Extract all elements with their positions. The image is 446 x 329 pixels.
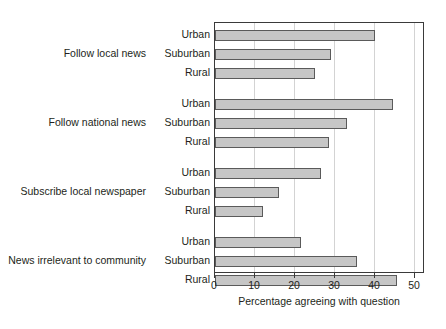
x-tick-30 <box>334 273 335 278</box>
sub-label-3-suburban: Suburban <box>152 255 210 266</box>
x-tick-10 <box>254 273 255 278</box>
bar-chart: Percentage agreeing with question 010203… <box>0 0 446 329</box>
bar-0-urban <box>215 30 375 41</box>
x-tick-50 <box>414 273 415 278</box>
sub-label-0-urban: Urban <box>152 29 210 40</box>
sub-label-1-urban: Urban <box>152 98 210 109</box>
sub-label-2-rural: Rural <box>152 205 210 216</box>
sub-label-2-urban: Urban <box>152 167 210 178</box>
group-label-0: Follow local news <box>0 48 146 59</box>
gridline-50 <box>414 23 415 272</box>
x-tick-label-50: 50 <box>402 279 426 291</box>
plot-area <box>214 22 424 273</box>
sub-label-3-urban: Urban <box>152 236 210 247</box>
x-tick-20 <box>294 273 295 278</box>
group-label-3: News irrelevant to community <box>0 255 146 266</box>
bar-2-rural <box>215 206 263 217</box>
group-label-2: Subscribe local newspaper <box>0 186 146 197</box>
sub-label-1-suburban: Suburban <box>152 117 210 128</box>
x-tick-label-40: 40 <box>362 279 386 291</box>
x-tick-label-30: 30 <box>322 279 346 291</box>
bar-0-rural <box>215 68 315 79</box>
sub-label-2-suburban: Suburban <box>152 186 210 197</box>
bar-1-suburban <box>215 118 347 129</box>
sub-label-3-rural: Rural <box>152 274 210 285</box>
x-tick-40 <box>374 273 375 278</box>
gridline-40 <box>374 23 375 272</box>
bar-0-suburban <box>215 49 331 60</box>
bar-1-urban <box>215 99 393 110</box>
x-tick-label-10: 10 <box>242 279 266 291</box>
x-axis-title: Percentage agreeing with question <box>214 295 424 307</box>
group-label-1: Follow national news <box>0 117 146 128</box>
x-tick-label-20: 20 <box>282 279 306 291</box>
sub-label-0-suburban: Suburban <box>152 48 210 59</box>
bar-1-rural <box>215 137 329 148</box>
bar-3-suburban <box>215 256 357 267</box>
sub-label-0-rural: Rural <box>152 67 210 78</box>
bar-3-urban <box>215 237 301 248</box>
bar-2-suburban <box>215 187 279 198</box>
x-tick-0 <box>214 273 215 278</box>
gridline-30 <box>334 23 335 272</box>
bar-2-urban <box>215 168 321 179</box>
sub-label-1-rural: Rural <box>152 136 210 147</box>
